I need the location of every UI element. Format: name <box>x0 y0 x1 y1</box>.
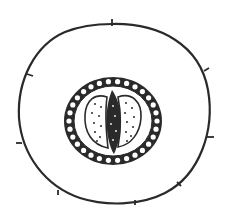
bead <box>151 102 156 107</box>
bead <box>70 102 75 107</box>
bead <box>151 135 156 140</box>
bead <box>115 79 120 84</box>
bead <box>81 148 86 153</box>
bead <box>153 110 158 115</box>
bead <box>106 158 111 163</box>
bead <box>124 81 129 86</box>
bead <box>66 118 71 123</box>
bead <box>67 127 72 132</box>
bead <box>67 110 72 115</box>
bead <box>88 84 93 89</box>
bead <box>75 142 80 147</box>
bead <box>81 89 86 94</box>
bead <box>140 148 145 153</box>
bead <box>146 142 151 147</box>
diagram-canvas <box>0 0 233 221</box>
bead <box>140 89 145 94</box>
bead <box>97 81 102 86</box>
bead <box>153 127 158 132</box>
bead <box>124 156 129 161</box>
bead <box>154 118 159 123</box>
vascular-cylinder <box>64 77 162 165</box>
bead <box>70 135 75 140</box>
bead <box>132 153 137 158</box>
bead <box>146 95 151 100</box>
bead <box>97 156 102 161</box>
bead <box>75 95 80 100</box>
bead <box>132 84 137 89</box>
bead <box>88 153 93 158</box>
bead <box>115 158 120 163</box>
bead <box>106 79 111 84</box>
